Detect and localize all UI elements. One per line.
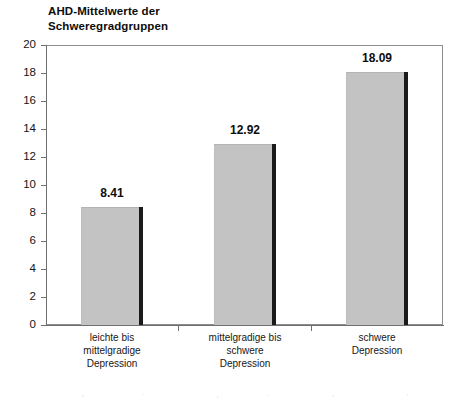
y-axis-tick <box>41 157 46 158</box>
bar-chart-figure: AHD-Mittelwerte der Schweregradgruppen 2… <box>0 0 463 404</box>
bar-shadow-edge <box>272 144 276 325</box>
y-axis-tick <box>41 45 46 46</box>
y-axis-tick-label: 14 <box>6 123 36 135</box>
x-axis-tick <box>178 326 179 331</box>
y-axis-line <box>46 45 47 326</box>
scan-speckle-artifact <box>0 392 463 400</box>
y-axis-tick-label: 20 <box>6 39 36 51</box>
y-axis-tick-label: 12 <box>6 151 36 163</box>
x-axis-category-label: schwere Depression <box>312 331 442 357</box>
bar-value-label: 8.41 <box>72 187 152 199</box>
bar-shadow-edge <box>139 207 143 325</box>
y-axis-tick <box>41 213 46 214</box>
y-axis-tick <box>41 73 46 74</box>
bar-shadow-edge <box>404 72 408 325</box>
x-axis-category-label: leichte bis mittelgradige Depression <box>47 331 177 371</box>
y-axis-tick <box>41 101 46 102</box>
chart-title: AHD-Mittelwerte der Schweregradgruppen <box>48 4 308 34</box>
bar-value-label: 18.09 <box>337 52 417 64</box>
y-axis-tick-label: 6 <box>6 235 36 247</box>
y-axis-tick-label: 4 <box>6 263 36 275</box>
y-axis-tick <box>41 129 46 130</box>
y-axis-tick <box>41 325 46 326</box>
x-axis-line <box>46 325 444 326</box>
y-axis-tick-label: 10 <box>6 179 36 191</box>
y-axis-tick <box>41 269 46 270</box>
bar <box>346 72 404 325</box>
x-axis-category-label: mittelgradige bis schwere Depression <box>180 331 310 371</box>
y-axis-tick-label: 8 <box>6 207 36 219</box>
y-axis-tick <box>41 297 46 298</box>
y-axis-tick-label: 2 <box>6 291 36 303</box>
bar-value-label: 12.92 <box>205 124 285 136</box>
y-axis-tick <box>41 185 46 186</box>
bar <box>214 144 272 325</box>
y-axis-tick-label: 0 <box>6 319 36 331</box>
y-axis-tick-label: 18 <box>6 67 36 79</box>
bar <box>81 207 139 325</box>
y-axis-tick <box>41 241 46 242</box>
y-axis-tick-label: 16 <box>6 95 36 107</box>
